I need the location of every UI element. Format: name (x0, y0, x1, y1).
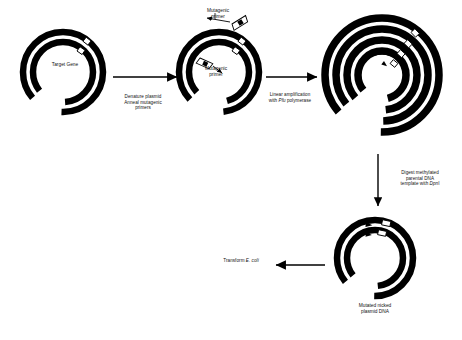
stage3-nick-head-4 (381, 61, 388, 68)
caption-amplify-post: polymerase (286, 98, 312, 103)
plasmid-stage1 (23, 32, 103, 112)
diagram-canvas: Denature plasmid Anneal mutagenic primer… (0, 0, 462, 340)
caption-transform: Transform E. coli (206, 258, 276, 264)
label-target-gene: Target Gene (36, 62, 94, 68)
stage4-mutation-dot-inner (390, 234, 394, 238)
stage4-mutation-dot-outer (395, 224, 399, 228)
caption-dpn1-digest: Digest methylated parental DNA template … (383, 170, 457, 187)
caption-linear-amplification: Linear amplification with Pfu polymerase (249, 92, 331, 103)
caption-transform-pre: Transform (223, 258, 246, 263)
label-mutated-nicked-plasmid: Mutated nicked plasmid DNA (337, 303, 413, 315)
label-mutagenic-primer-top: Mutagenic primer (196, 8, 240, 20)
plasmid-stage4 (337, 220, 413, 296)
plasmid-stage3 (325, 18, 439, 132)
stage4-mutation-site-inner (378, 230, 387, 237)
caption-digest-post: I (438, 181, 439, 186)
stage4-mutation-site-outer (382, 220, 391, 227)
stage3-strand-4 (358, 51, 406, 99)
plasmid-stage2 (179, 13, 259, 112)
caption-digest-enzyme: Dpn (430, 181, 439, 186)
caption-denature-anneal: Denature plasmid Anneal mutagenic primer… (104, 94, 182, 111)
label-mutagenic-primer-inner: Mutagenic primer (196, 66, 236, 78)
caption-amplify-enzyme: Pfu (279, 98, 286, 103)
caption-transform-organism: E. coli (246, 258, 259, 263)
